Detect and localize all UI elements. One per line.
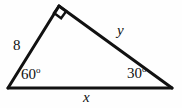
- side-length-label-right: y: [117, 23, 124, 38]
- angle-label-left: 60o: [21, 67, 41, 82]
- degree-symbol-icon: o: [142, 64, 147, 74]
- triangle-side-right: [59, 6, 172, 88]
- degree-symbol-icon: o: [36, 65, 41, 75]
- angle-right-value: 30: [127, 65, 142, 81]
- side-length-label-bottom: x: [83, 90, 90, 105]
- triangle-figure: [0, 0, 182, 108]
- angle-label-right: 30o: [127, 66, 147, 81]
- right-angle-marker-icon: [54, 6, 66, 18]
- side-length-label-left: 8: [13, 38, 21, 53]
- geometry-diagram: 8 y x 60o 30o: [0, 0, 182, 108]
- angle-left-value: 60: [21, 66, 36, 82]
